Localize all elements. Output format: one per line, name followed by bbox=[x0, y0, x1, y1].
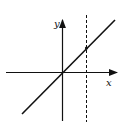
diagram-canvas: y x bbox=[0, 0, 123, 124]
y-axis-label: y bbox=[53, 18, 60, 29]
line-y-equals-x bbox=[22, 20, 115, 114]
x-axis-label: x bbox=[106, 77, 112, 88]
intersection-point bbox=[85, 46, 88, 49]
coordinate-diagram: y x bbox=[0, 0, 123, 124]
